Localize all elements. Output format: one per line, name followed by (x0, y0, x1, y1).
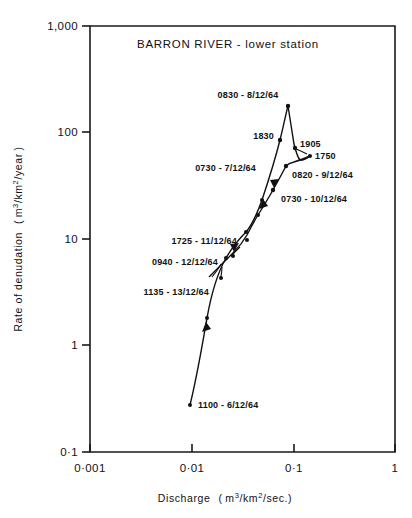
data-point-marker (244, 230, 248, 234)
annotation-0830-8-12-64: 0830 - 8/12/64 (218, 90, 279, 100)
chart-title: BARRON RIVER - lower station (137, 38, 319, 50)
data-point-marker (224, 256, 228, 260)
annotation-1725-11-12-64: 1725 - 11/12/64 (171, 236, 237, 246)
annotation-1905: 1905 (300, 139, 321, 149)
y-tick-label-10: 10 (64, 233, 78, 245)
y-axis-title-name: Rate of denudation (12, 232, 24, 332)
x-tick-label-1: 1 (392, 462, 399, 474)
annotation-1830: 1830 (253, 131, 274, 141)
y-axis-title: Rate of denudation( m3/km2/year ) (11, 146, 25, 331)
y-tick-label-1000: 1,000 (47, 20, 78, 32)
data-point-marker (205, 316, 209, 320)
annotation-1135-13-12-64: 1135 - 13/12/64 (143, 287, 209, 297)
data-point-marker (278, 138, 282, 142)
x-tick-label-0.01: 0·01 (180, 462, 205, 474)
data-point-marker (286, 104, 290, 108)
annotation-0730-7-12-64: 0730 - 7/12/64 (195, 163, 256, 173)
annotation-0940-12-12-64: 0940 - 12/12/64 (152, 257, 218, 267)
data-point-marker (245, 238, 249, 242)
data-point-marker (284, 164, 288, 168)
data-point-marker (308, 154, 312, 158)
data-point-marker (256, 213, 260, 217)
data-point-marker (188, 403, 192, 407)
x-axis-title-name: Discharge (158, 492, 211, 504)
y-tick-label-0.1: 0·1 (60, 446, 78, 458)
annotation-1750: 1750 (315, 151, 336, 161)
annotation-0820-9-12-64: 0820 - 9/12/64 (292, 170, 353, 180)
data-point-marker (260, 198, 264, 202)
chart-figure: 1,000 100 10 1 0·1 0·001 0·01 0·1 1 Disc… (0, 0, 412, 518)
x-axis-title: Discharge( m3/km2/sec.) (158, 491, 292, 505)
y-tick-label-100: 100 (58, 126, 78, 138)
x-tick-label-0.1: 0·1 (285, 462, 303, 474)
denudation-vs-discharge-loglog-plot: 1,000 100 10 1 0·1 0·001 0·01 0·1 1 Disc… (0, 0, 412, 518)
annotation-1100-6-12-64: 1100 - 6/12/64 (198, 400, 258, 410)
annotation-0730-10-12-64: 0730 - 10/12/64 (281, 194, 347, 204)
data-point-marker (271, 188, 275, 192)
y-tick-label-1: 1 (71, 339, 78, 351)
x-tick-label-0.001: 0·001 (74, 462, 105, 474)
